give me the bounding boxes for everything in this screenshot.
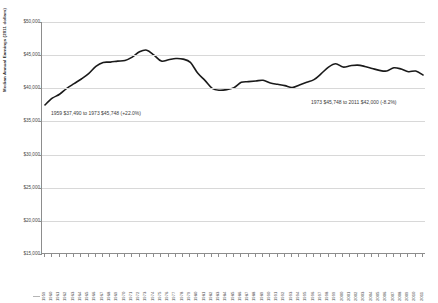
x-tick-mark <box>255 254 256 257</box>
x-tick-mark <box>415 254 416 257</box>
x-tick-mark <box>378 254 379 257</box>
x-tick-mark <box>240 254 241 257</box>
y-tick-label: $30,000 <box>6 152 40 157</box>
x-tick-mark <box>59 254 60 257</box>
y-axis-tick-labels: $50,000$45,000$40,000$35,000$30,000$25,0… <box>0 0 40 303</box>
x-tick-label: 1995 <box>302 292 307 301</box>
x-tick-mark <box>117 254 118 257</box>
x-tick-mark <box>357 254 358 257</box>
gridline <box>42 22 425 23</box>
annotation-decline-1973-2011: 1973 $45,748 to 2011 $42,000 (-8.2%) <box>311 99 397 105</box>
x-tick-mark <box>233 254 234 257</box>
x-tick-mark <box>364 254 365 257</box>
x-tick-label: 1975 <box>157 292 162 301</box>
x-tick-mark <box>211 254 212 257</box>
x-tick-mark <box>226 254 227 257</box>
x-tick-label: 1990 <box>266 292 271 301</box>
x-tick-label: 1981 <box>201 292 206 301</box>
x-tick-label: 1973 <box>142 292 147 301</box>
x-tick-label: 2000 <box>339 292 344 301</box>
x-tick-label: 2001 <box>346 292 351 301</box>
x-tick-label: 1969 <box>113 292 118 301</box>
x-tick-label: 1985 <box>230 292 235 301</box>
x-tick-label: 1979 <box>186 292 191 301</box>
y-tick-mark <box>39 188 42 189</box>
x-tick-mark <box>95 254 96 257</box>
x-tick-label: 1972 <box>135 292 140 301</box>
annotation-growth-1959-1973: 1959 $37,490 to 1973 $45,748 (+22.0%) <box>51 110 141 116</box>
y-tick-label: $40,000 <box>6 85 40 90</box>
y-tick-label: $45,000 <box>6 52 40 57</box>
x-tick-mark <box>175 254 176 257</box>
x-tick-mark <box>124 254 125 257</box>
x-tick-mark <box>335 254 336 257</box>
x-tick-mark <box>197 254 198 257</box>
gridline <box>42 121 425 122</box>
x-tick-label: 1960 <box>48 292 53 301</box>
y-tick-mark <box>39 155 42 156</box>
x-tick-mark <box>80 254 81 257</box>
x-tick-label: 1993 <box>288 292 293 301</box>
x-tick-label: 2010 <box>411 292 416 301</box>
x-tick-label: 1970 <box>121 292 126 301</box>
plot-area <box>41 22 425 254</box>
x-tick-mark <box>400 254 401 257</box>
x-tick-label: 1959 <box>41 292 46 301</box>
x-tick-label: 1988 <box>251 292 256 301</box>
x-tick-mark <box>153 254 154 257</box>
x-axis-tick-labels: 1959196019611962196319641965196619671968… <box>41 254 425 303</box>
x-tick-mark <box>160 254 161 257</box>
y-tick-label: $35,000 <box>6 118 40 123</box>
x-tick-mark <box>168 254 169 257</box>
series-line <box>45 50 423 105</box>
x-tick-label: 1987 <box>244 292 249 301</box>
x-tick-label: 1986 <box>237 292 242 301</box>
x-tick-mark <box>298 254 299 257</box>
x-tick-mark <box>371 254 372 257</box>
y-tick-label: $20,000 <box>6 218 40 223</box>
y-tick-mark <box>39 55 42 56</box>
x-tick-label: 2002 <box>353 292 358 301</box>
x-tick-mark <box>313 254 314 257</box>
gridline <box>42 88 425 89</box>
x-tick-label: 1998 <box>324 292 329 301</box>
x-tick-label: 1994 <box>295 292 300 301</box>
x-tick-mark <box>342 254 343 257</box>
axis-corner-mark <box>33 296 40 297</box>
x-tick-mark <box>393 254 394 257</box>
x-tick-mark <box>131 254 132 257</box>
x-tick-label: 2008 <box>397 292 402 301</box>
x-tick-label: 2004 <box>368 292 373 301</box>
x-tick-mark <box>102 254 103 257</box>
x-tick-mark <box>277 254 278 257</box>
x-tick-mark <box>218 254 219 257</box>
y-tick-mark <box>39 22 42 23</box>
x-tick-label: 1983 <box>215 292 220 301</box>
x-tick-mark <box>189 254 190 257</box>
x-tick-mark <box>407 254 408 257</box>
x-tick-mark <box>51 254 52 257</box>
earnings-line-series <box>42 22 426 254</box>
x-tick-label: 1964 <box>77 292 82 301</box>
x-tick-mark <box>306 254 307 257</box>
x-tick-mark <box>146 254 147 257</box>
x-tick-mark <box>349 254 350 257</box>
x-tick-label: 1991 <box>273 292 278 301</box>
x-tick-label: 1977 <box>171 292 176 301</box>
y-tick-label: $50,000 <box>6 19 40 24</box>
x-tick-label: 2009 <box>404 292 409 301</box>
x-tick-mark <box>328 254 329 257</box>
x-tick-label: 1974 <box>150 292 155 301</box>
x-tick-mark <box>66 254 67 257</box>
x-tick-label: 1965 <box>84 292 89 301</box>
y-tick-mark <box>39 88 42 89</box>
x-tick-mark <box>73 254 74 257</box>
x-tick-mark <box>139 254 140 257</box>
gridline <box>42 55 425 56</box>
x-tick-label: 1999 <box>331 292 336 301</box>
x-tick-label: 1978 <box>179 292 184 301</box>
x-tick-label: 1984 <box>222 292 227 301</box>
x-tick-label: 2006 <box>382 292 387 301</box>
gridline <box>42 221 425 222</box>
x-tick-mark <box>291 254 292 257</box>
